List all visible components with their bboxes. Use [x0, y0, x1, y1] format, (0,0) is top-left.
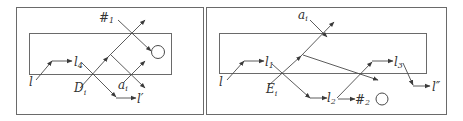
left-inner-box — [30, 34, 172, 75]
path-a-down — [310, 20, 327, 37]
label-hash2: #2 — [355, 93, 370, 107]
label-l3: l3 — [394, 55, 403, 70]
path-branch-down — [111, 55, 145, 88]
path-l-segment-right — [227, 61, 244, 80]
path-l1-to-l2 — [272, 64, 310, 98]
label-ldoubleprime: l″ — [432, 80, 441, 94]
label-a-right: ai — [298, 8, 308, 23]
label-hash1: #1 — [99, 11, 114, 25]
diagram-canvas: l l4 Di ai l′ #1 l l1 Ei — [0, 0, 463, 121]
left-circle — [152, 46, 165, 59]
label-E: Ei — [265, 82, 278, 98]
label-l1: l1 — [265, 55, 274, 70]
path-D-up-continued — [108, 20, 145, 57]
label-l-right: l — [219, 75, 223, 89]
label-l4: l4 — [74, 55, 83, 70]
path-l-segment — [36, 61, 52, 80]
label-l: l — [29, 75, 33, 89]
label-l2: l2 — [327, 91, 336, 106]
path-hash1-to-circle — [118, 20, 151, 51]
label-lprime: l′ — [137, 92, 144, 106]
path-a-up — [124, 61, 145, 82]
right-panel: l l1 Ei ai l2 #2 l3 l″ — [207, 8, 447, 115]
path-D-up — [80, 57, 108, 88]
right-circle — [376, 93, 388, 105]
left-panel: l l4 Di ai l′ #1 — [17, 8, 204, 115]
label-a: ai — [118, 78, 128, 93]
